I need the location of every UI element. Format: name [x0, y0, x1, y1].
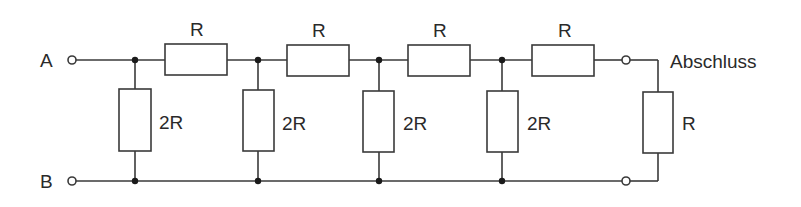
ladder-circuit-diagram: A B Abschluss R R R R 2R 2R 2R 2R R — [0, 0, 801, 207]
label-abschluss: Abschluss — [670, 51, 757, 72]
shunt-resistor-1 — [119, 89, 151, 151]
shunt-branch-1 — [119, 60, 151, 181]
shunt-branch-3 — [363, 60, 394, 181]
terminal-out-bottom-icon — [622, 177, 630, 185]
label-shunt-4: 2R — [527, 113, 551, 134]
label-shunt-2: 2R — [282, 113, 306, 134]
label-series-1: R — [190, 19, 204, 40]
label-terminal-b: B — [40, 171, 53, 192]
bottom-rail — [76, 153, 658, 181]
shunt-branch-4 — [487, 60, 518, 181]
label-shunt-1: 2R — [159, 112, 183, 133]
label-shunt-3: 2R — [403, 113, 427, 134]
termination-resistor — [643, 92, 673, 153]
label-series-4: R — [558, 20, 572, 41]
shunt-resistor-4 — [487, 91, 518, 152]
series-resistor-1 — [165, 44, 227, 75]
terminal-a-icon — [68, 56, 76, 64]
label-series-2: R — [312, 20, 326, 41]
shunt-branch-2 — [243, 60, 274, 181]
label-terminal-a: A — [40, 50, 53, 71]
terminal-out-top-icon — [622, 56, 630, 64]
series-resistor-2 — [287, 45, 349, 76]
label-series-3: R — [433, 20, 447, 41]
series-resistor-3 — [408, 45, 470, 76]
series-resistor-4 — [532, 45, 594, 76]
terminal-b-icon — [68, 177, 76, 185]
shunt-resistor-2 — [243, 90, 274, 151]
label-termination-resistor: R — [682, 113, 696, 134]
shunt-resistor-3 — [363, 91, 394, 152]
